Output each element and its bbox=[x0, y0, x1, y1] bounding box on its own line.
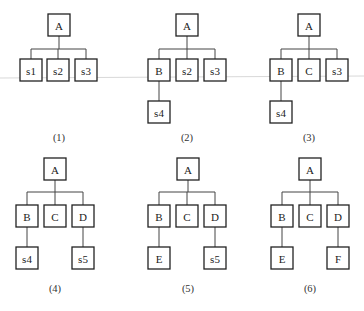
tree-node: A bbox=[299, 158, 321, 180]
node-label: A bbox=[306, 164, 314, 176]
node-label: s1 bbox=[26, 65, 36, 77]
tree-node: B bbox=[148, 205, 170, 227]
tree-node: s4 bbox=[16, 247, 38, 269]
tree-node: C bbox=[299, 205, 321, 227]
tree-node: A bbox=[176, 14, 198, 36]
node-label: B bbox=[278, 211, 285, 223]
tree-node: s2 bbox=[47, 59, 69, 81]
tree-node: A bbox=[44, 158, 66, 180]
node-label: s3 bbox=[332, 65, 342, 77]
node-label: F bbox=[335, 253, 341, 265]
node-label: s3 bbox=[81, 65, 91, 77]
panel-caption: (5) bbox=[182, 283, 195, 295]
tree-node: s3 bbox=[326, 59, 348, 81]
node-label: B bbox=[277, 65, 284, 77]
node-label: C bbox=[306, 211, 313, 223]
node-label: A bbox=[51, 164, 59, 176]
node-label: A bbox=[184, 164, 192, 176]
tree-node: B bbox=[270, 59, 292, 81]
tree-node: s4 bbox=[148, 101, 170, 123]
node-label: s4 bbox=[154, 107, 164, 119]
tree-panel-1: As1s2s3(1) bbox=[20, 14, 97, 144]
node-label: B bbox=[155, 65, 162, 77]
tree-node: C bbox=[44, 205, 66, 227]
tree-node: D bbox=[204, 205, 226, 227]
node-label: A bbox=[305, 20, 313, 32]
tree-node: F bbox=[327, 247, 349, 269]
tree-node: s4 bbox=[270, 101, 292, 123]
tree-node: s3 bbox=[75, 59, 97, 81]
panel-caption: (6) bbox=[304, 283, 317, 295]
node-label: D bbox=[334, 211, 342, 223]
node-label: A bbox=[55, 20, 63, 32]
tree-node: s3 bbox=[204, 59, 226, 81]
tree-diagram: As1s2s3(1)ABs2s3s4(2)ABCs3s4(3)ABCDs4s5(… bbox=[0, 0, 364, 311]
node-label: s2 bbox=[53, 65, 63, 77]
tree-panel-3: ABCs3s4(3) bbox=[270, 14, 348, 144]
tree-node: E bbox=[148, 247, 170, 269]
tree-panel-5: ABCDEs5(5) bbox=[148, 158, 226, 295]
tree-node: D bbox=[72, 205, 94, 227]
node-label: B bbox=[155, 211, 162, 223]
node-label: C bbox=[305, 65, 312, 77]
tree-panel-6: ABCDEF(6) bbox=[271, 158, 349, 295]
tree-node: s1 bbox=[20, 59, 42, 81]
node-label: A bbox=[183, 20, 191, 32]
tree-node: A bbox=[48, 14, 70, 36]
tree-node: B bbox=[148, 59, 170, 81]
node-label: B bbox=[23, 211, 30, 223]
tree-node: B bbox=[16, 205, 38, 227]
tree-node: C bbox=[176, 205, 198, 227]
tree-panel-4: ABCDs4s5(4) bbox=[16, 158, 94, 295]
tree-node: D bbox=[327, 205, 349, 227]
node-label: E bbox=[279, 253, 286, 265]
node-label: C bbox=[183, 211, 190, 223]
tree-node: B bbox=[271, 205, 293, 227]
tree-panel-2: ABs2s3s4(2) bbox=[148, 14, 226, 144]
node-label: s5 bbox=[210, 253, 220, 265]
tree-node: A bbox=[177, 158, 199, 180]
node-label: s2 bbox=[182, 65, 192, 77]
node-label: s4 bbox=[276, 107, 286, 119]
node-label: s3 bbox=[210, 65, 220, 77]
tree-node: E bbox=[271, 247, 293, 269]
tree-node: s5 bbox=[72, 247, 94, 269]
tree-node: s5 bbox=[204, 247, 226, 269]
tree-node: A bbox=[298, 14, 320, 36]
node-label: C bbox=[51, 211, 58, 223]
panel-caption: (1) bbox=[53, 132, 66, 144]
node-label: s4 bbox=[22, 253, 32, 265]
tree-node: s2 bbox=[176, 59, 198, 81]
node-label: D bbox=[211, 211, 219, 223]
tree-node: C bbox=[298, 59, 320, 81]
panel-caption: (3) bbox=[303, 132, 316, 144]
node-label: E bbox=[156, 253, 163, 265]
node-label: s5 bbox=[78, 253, 88, 265]
panel-caption: (4) bbox=[49, 283, 62, 295]
panel-caption: (2) bbox=[181, 132, 194, 144]
node-label: D bbox=[79, 211, 87, 223]
